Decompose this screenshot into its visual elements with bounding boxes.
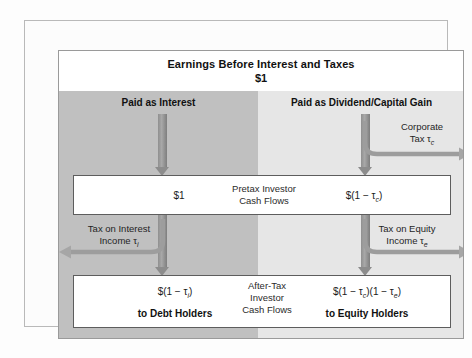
label-equity-tax: Tax on Equity Income τe xyxy=(355,223,459,251)
aftertax-left-recipient: to Debt Holders xyxy=(110,307,240,320)
aftertax-right-recipient: to Equity Holders xyxy=(292,307,442,320)
figure-title: Earnings Before Interest and Taxes xyxy=(59,57,463,71)
label-interest-tax-line2: Income τi xyxy=(67,235,171,251)
arrow-interest-to-pretax xyxy=(157,114,168,176)
label-interest-tax-line1: Tax on Interest xyxy=(67,223,171,235)
column-heading-paid-as-dividend: Paid as Dividend/Capital Gain xyxy=(258,97,464,108)
column-heading-paid-as-interest: Paid as Interest xyxy=(59,97,258,108)
figure-inner-frame: Earnings Before Interest and Taxes $1 Pa… xyxy=(58,50,464,339)
figure-root: Earnings Before Interest and Taxes $1 Pa… xyxy=(0,0,472,358)
label-corporate-tax-line2: Tax τc xyxy=(379,133,464,149)
aftertax-right-value: $(1 − τc)(1 − τe) xyxy=(292,285,442,302)
figure-title-amount: $1 xyxy=(59,71,463,85)
figure-outer-frame: Earnings Before Interest and Taxes $1 Pa… xyxy=(24,20,448,327)
label-equity-tax-line1: Tax on Equity xyxy=(355,223,459,235)
label-equity-tax-line2: Income τe xyxy=(355,235,459,251)
pretax-right-value: $(1 − τc) xyxy=(304,189,424,206)
aftertax-left-value: $(1 − τi) xyxy=(110,285,240,302)
aftertax-cash-flow-box: $(1 − τi) to Debt Holders After-Tax Inve… xyxy=(73,275,451,328)
label-corporate-tax: Corporate Tax τc xyxy=(379,121,464,149)
label-interest-tax: Tax on Interest Income τi xyxy=(67,223,171,251)
label-corporate-tax-line1: Corporate xyxy=(379,121,464,133)
figure-title-block: Earnings Before Interest and Taxes $1 xyxy=(59,57,463,85)
pretax-cash-flow-box: $1 Pretax Investor Cash Flows $(1 − τc) xyxy=(73,175,451,215)
